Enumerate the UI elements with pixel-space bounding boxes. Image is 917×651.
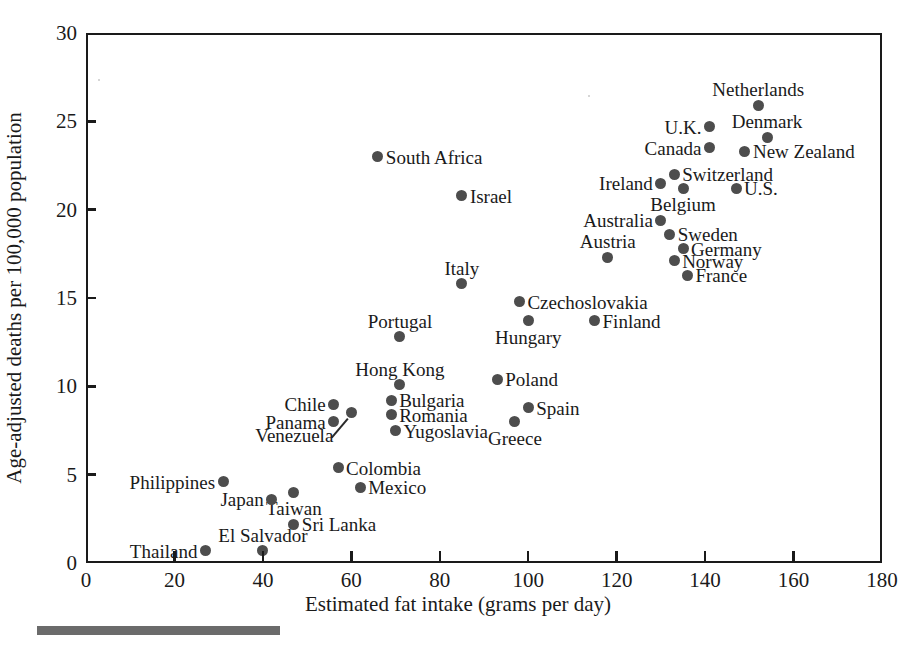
x-axis-tick [262, 551, 265, 561]
scatter-plot-figure: NetherlandsU.K.DenmarkCanadaNew ZealandS… [0, 0, 917, 651]
y-axis-tick-label: 5 [67, 464, 78, 485]
x-axis-tick-label: 80 [429, 570, 450, 591]
y-axis-tick-label: 10 [56, 376, 77, 397]
x-axis-tick-label: 100 [512, 570, 544, 591]
y-axis-tick-label: 0 [67, 553, 78, 574]
y-axis-tick-label: 20 [56, 199, 77, 220]
x-axis-tick-label: 0 [81, 570, 92, 591]
x-axis-tick [615, 551, 618, 561]
x-axis-tick [350, 551, 353, 561]
x-axis-tick [792, 551, 795, 561]
x-axis-tick-label: 180 [866, 570, 898, 591]
paper-speck [98, 79, 100, 81]
y-axis-tick [86, 208, 96, 211]
x-axis-tick [527, 551, 530, 561]
y-axis-tick [86, 385, 96, 388]
x-axis-tick-label: 120 [601, 570, 633, 591]
x-axis-tick-label: 140 [689, 570, 721, 591]
x-axis-tick-label: 40 [252, 570, 273, 591]
x-axis-tick-label: 20 [164, 570, 185, 591]
plot-area-frame [86, 33, 882, 563]
y-axis-label: Age-adjusted deaths per 100,000 populati… [2, 112, 27, 484]
x-axis-tick-label: 60 [341, 570, 362, 591]
y-axis-tick-label: 30 [56, 23, 77, 44]
x-axis-label: Estimated fat intake (grams per day) [305, 592, 611, 617]
y-axis-tick-label: 25 [56, 111, 77, 132]
x-axis-tick [439, 551, 442, 561]
paper-speck [588, 95, 590, 97]
y-axis-tick [86, 120, 96, 123]
y-axis-tick [86, 473, 96, 476]
x-axis-tick-label: 160 [778, 570, 810, 591]
scan-artifact-bar [37, 626, 280, 635]
y-axis-tick [86, 297, 96, 300]
y-axis-tick-label: 15 [56, 288, 77, 309]
x-axis-tick [704, 551, 707, 561]
x-axis-tick [173, 551, 176, 561]
